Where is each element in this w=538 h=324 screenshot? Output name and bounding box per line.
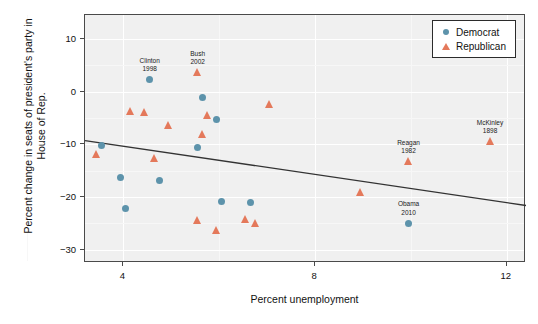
legend-label-republican: Republican (454, 41, 506, 52)
y-axis-tick-mark (80, 91, 84, 92)
point-annotation: Bush2002 (190, 50, 205, 66)
annotation-year: 1898 (477, 127, 503, 135)
data-point-republican (404, 157, 412, 165)
data-point-republican (203, 111, 211, 119)
annotation-year: 1998 (140, 65, 160, 73)
annotation-name: Reagan (397, 139, 420, 147)
y-axis-title-wrap: Percent change in seats of president's p… (20, 14, 50, 262)
y-axis-tick-mark (80, 143, 84, 144)
y-axis-tick-label: −30 (60, 243, 76, 254)
data-point-republican (212, 226, 220, 234)
data-point-democrat (405, 220, 412, 227)
y-axis-tick-label: 10 (65, 32, 76, 43)
x-axis-title: Percent unemployment (84, 293, 525, 305)
data-point-republican (486, 137, 494, 145)
data-point-republican (126, 107, 134, 115)
data-point-republican (150, 154, 158, 162)
data-point-republican (265, 100, 273, 108)
point-annotation: McKinley1898 (477, 119, 503, 135)
data-point-democrat (156, 177, 163, 184)
y-axis-tick-mark (80, 196, 84, 197)
data-point-republican (251, 219, 259, 227)
scatter-plot-figure: Clinton1998Bush2002McKinley1898Reagan198… (0, 0, 538, 324)
point-annotation: Obama2010 (398, 200, 419, 216)
y-axis-tick-mark (80, 38, 84, 39)
point-annotation: Reagan1982 (397, 139, 420, 155)
triangle-marker-icon (438, 43, 454, 50)
legend-item-republican[interactable]: Republican (438, 39, 506, 53)
point-annotation: Clinton1998 (140, 57, 160, 73)
data-point-republican (241, 215, 249, 223)
annotation-year: 1982 (397, 147, 420, 155)
x-axis-tick-mark (506, 262, 507, 266)
annotation-year: 2002 (190, 58, 205, 66)
legend-item-democrat[interactable]: Democrat (438, 25, 506, 39)
x-axis-tick-label: 8 (311, 270, 316, 281)
data-point-republican (356, 188, 364, 196)
y-axis-tick-label: 0 (71, 85, 76, 96)
y-axis-tick-mark (80, 249, 84, 250)
circle-marker-icon (438, 29, 454, 35)
legend-label-democrat: Democrat (454, 27, 499, 38)
annotation-name: Bush (190, 50, 205, 58)
y-axis-title: Percent change in seats of president's p… (22, 2, 48, 250)
y-axis-tick-label: −20 (60, 191, 76, 202)
y-axis-tick-label: −10 (60, 138, 76, 149)
data-point-republican (164, 121, 172, 129)
legend[interactable]: Democrat Republican (432, 20, 516, 58)
data-point-republican (140, 108, 148, 116)
annotation-name: Clinton (140, 57, 160, 65)
data-point-republican (198, 130, 206, 138)
data-point-democrat (122, 205, 129, 212)
x-axis-tick-mark (122, 262, 123, 266)
data-point-republican (193, 68, 201, 76)
data-point-democrat (247, 199, 254, 206)
data-point-republican (92, 150, 100, 158)
annotation-year: 2010 (398, 209, 419, 217)
annotation-name: Obama (398, 200, 419, 208)
data-point-republican (193, 216, 201, 224)
plot-panel: Clinton1998Bush2002McKinley1898Reagan198… (84, 14, 525, 262)
x-axis-tick-label: 4 (120, 270, 125, 281)
annotation-name: McKinley (477, 119, 503, 127)
x-axis-tick-mark (314, 262, 315, 266)
x-axis-tick-label: 12 (501, 270, 512, 281)
